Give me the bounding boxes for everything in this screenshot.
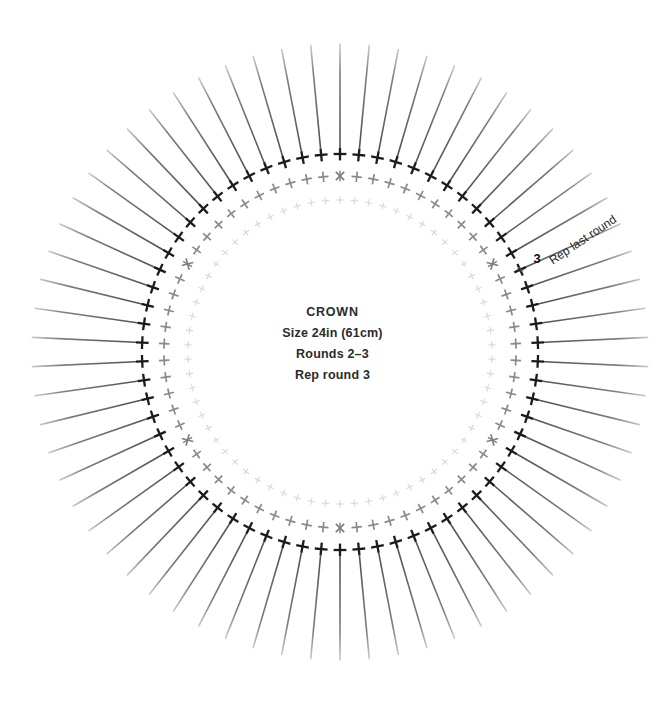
stitch-cross-round-3	[151, 426, 168, 443]
spoke-line	[107, 486, 185, 553]
spoke-line	[89, 173, 173, 233]
stitch-cross-round-3	[140, 298, 155, 313]
stitch-cross-round-2	[500, 288, 513, 301]
spokes-group	[32, 44, 647, 660]
stitch-cross-round-1	[188, 312, 197, 321]
stitch-cross-round-3	[295, 539, 310, 554]
stitch-cross-round-2	[224, 206, 239, 221]
ring-2-group	[159, 171, 521, 533]
stitch-cross-round-2	[428, 493, 442, 507]
spoke-line	[398, 549, 427, 648]
stitch-cross-round-3	[314, 542, 328, 556]
stitch-cross-round-3	[151, 261, 168, 278]
stitch-cross-round-3	[145, 409, 161, 425]
stitch-cross-round-2	[454, 217, 469, 232]
stitch-cross-round-1	[365, 199, 373, 207]
stitch-cross-round-2	[167, 288, 180, 301]
stitch-cross-round-2	[160, 321, 172, 333]
stitch-cross-round-1	[336, 500, 343, 507]
stitch-cross-round-3	[334, 148, 347, 161]
spoke-line	[539, 400, 639, 424]
stitch-cross-round-2	[493, 272, 507, 286]
stitch-cross-round-1	[293, 493, 302, 502]
stitch-cross-round-3	[388, 534, 404, 550]
stitch-cross-round-2	[367, 519, 379, 531]
spoke-line	[545, 362, 648, 367]
stitch-cross-round-3	[209, 499, 227, 517]
stitch-cross-round-3	[531, 336, 544, 349]
stitch-cross-round-1	[220, 446, 230, 456]
spoke-line	[41, 400, 141, 424]
stitch-cross-round-2	[441, 483, 456, 498]
stitch-cross-round-3	[525, 391, 540, 406]
stitch-cross-round-1	[307, 497, 315, 505]
stitch-cross-round-3	[519, 409, 535, 425]
stitch-cross-round-3	[525, 298, 540, 313]
spoke-line	[451, 524, 507, 611]
stitch-cross-round-3	[492, 458, 510, 476]
x-increase-marker	[486, 434, 499, 446]
stitch-cross-round-3	[422, 519, 439, 536]
stitch-cross-round-2	[238, 197, 252, 211]
spoke-line	[543, 308, 645, 323]
stitch-cross-round-3	[276, 534, 292, 550]
stitch-cross-round-2	[505, 387, 518, 400]
stitch-cross-round-1	[417, 219, 427, 229]
spoke-line	[481, 500, 552, 575]
stitch-cross-round-1	[185, 370, 193, 378]
stitch-cross-round-1	[488, 355, 496, 363]
spoke-line	[311, 556, 321, 659]
stitch-cross-round-2	[200, 460, 215, 475]
stitch-cross-round-3	[224, 510, 242, 528]
stitch-cross-round-2	[476, 243, 491, 258]
stitch-cross-round-3	[405, 160, 422, 177]
x-increase-marker	[181, 258, 194, 270]
stitch-cross-round-1	[467, 271, 477, 281]
stitch-cross-round-3	[258, 160, 275, 177]
stitch-cross-round-1	[467, 423, 477, 433]
stitch-cross-round-2	[189, 447, 204, 462]
stitch-cross-round-2	[268, 182, 282, 196]
stitch-cross-round-1	[211, 259, 221, 269]
spoke-line	[507, 471, 591, 531]
stitch-cross-round-2	[399, 182, 413, 196]
stitch-cross-round-2	[399, 509, 413, 523]
stitch-cross-round-3	[137, 317, 151, 331]
x-increase-marker	[486, 258, 499, 270]
spoke-line	[89, 471, 173, 531]
stitch-cross-round-3	[295, 150, 310, 165]
stitch-cross-round-3	[160, 442, 177, 459]
stitch-cross-round-1	[241, 227, 251, 237]
round-number-label: 3	[533, 251, 540, 266]
stitch-cross-round-1	[211, 435, 221, 445]
stitch-cross-round-3	[137, 373, 151, 387]
stitch-cross-round-2	[414, 501, 428, 515]
spoke-line	[539, 279, 639, 303]
stitch-cross-round-2	[351, 522, 362, 533]
spoke-line	[35, 381, 137, 396]
stitch-cross-round-2	[493, 418, 507, 432]
stitch-cross-round-3	[258, 527, 275, 544]
stitch-cross-round-1	[336, 196, 343, 203]
stitch-cross-round-1	[378, 202, 387, 211]
stitch-cross-round-1	[392, 488, 401, 497]
stitch-cross-round-3	[352, 542, 366, 556]
stitch-cross-round-1	[440, 457, 450, 467]
spoke-line	[481, 129, 552, 204]
stitch-cross-round-1	[230, 237, 240, 247]
stitch-cross-round-3	[531, 355, 544, 368]
stitch-cross-round-2	[510, 338, 521, 349]
stitch-cross-round-3	[405, 527, 422, 544]
stitch-cross-round-1	[293, 202, 302, 211]
stitch-cross-round-3	[145, 279, 161, 295]
stitch-cross-round-1	[486, 370, 494, 378]
stitch-cross-round-3	[276, 154, 292, 170]
stitch-cross-round-1	[279, 488, 288, 497]
stitch-cross-round-3	[370, 539, 385, 554]
spoke-line	[416, 542, 454, 638]
stitch-cross-round-3	[160, 244, 177, 261]
stitch-cross-round-1	[188, 383, 197, 392]
stitch-cross-round-1	[197, 410, 207, 420]
stitch-cross-round-1	[266, 212, 276, 222]
stitch-cross-round-1	[378, 493, 387, 502]
